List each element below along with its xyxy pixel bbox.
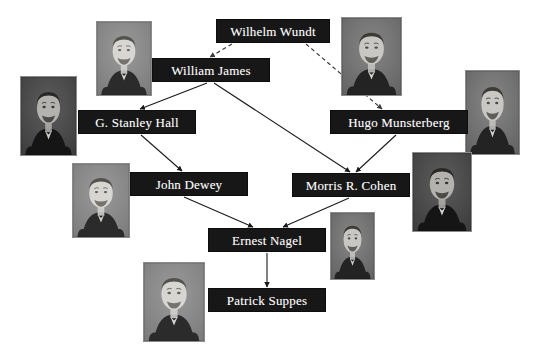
photo-suppes [143, 262, 205, 342]
photo-hall [20, 76, 77, 156]
node-label-nagel: Ernest Nagel [232, 234, 302, 247]
photo-dewey [72, 163, 130, 238]
edge-wundt-to-james [210, 44, 232, 57]
photo-munsterberg [465, 70, 520, 155]
photo-cohen [412, 152, 472, 232]
node-label-cohen: Morris R. Cohen [306, 179, 397, 192]
node-suppes[interactable]: Patrick Suppes [208, 288, 326, 312]
node-munsterberg[interactable]: Hugo Munsterberg [330, 110, 468, 134]
node-cohen[interactable]: Morris R. Cohen [292, 173, 410, 197]
node-label-dewey: John Dewey [156, 178, 223, 191]
node-label-hall: G. Stanley Hall [95, 116, 179, 129]
node-label-james: William James [171, 64, 251, 77]
node-label-munsterberg: Hugo Munsterberg [348, 116, 450, 129]
photo-nagel [330, 212, 375, 280]
node-james[interactable]: William James [152, 58, 270, 82]
photo-james [96, 21, 152, 96]
node-dewey[interactable]: John Dewey [130, 172, 248, 196]
diagram-canvas: Wilhelm WundtWilliam JamesG. Stanley Hal… [0, 0, 538, 348]
node-nagel[interactable]: Ernest Nagel [208, 228, 326, 252]
node-label-suppes: Patrick Suppes [227, 294, 307, 307]
edge-hall-to-dewey [141, 135, 182, 171]
photo-wundt [341, 17, 402, 96]
edge-dewey-to-nagel [184, 197, 253, 227]
node-label-wundt: Wilhelm Wundt [230, 25, 315, 38]
node-hall[interactable]: G. Stanley Hall [78, 110, 196, 134]
node-wundt[interactable]: Wilhelm Wundt [216, 19, 330, 43]
edge-munsterberg-to-cohen [356, 135, 396, 172]
